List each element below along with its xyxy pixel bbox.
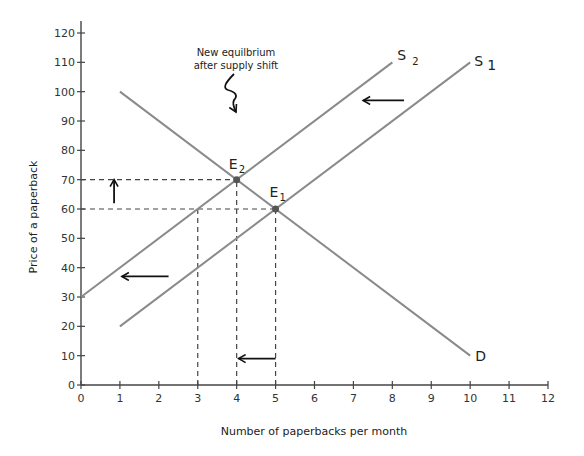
y-axis-title: Price of a paperback — [27, 160, 40, 273]
equilibrium-point-e1 — [272, 206, 279, 213]
arrows — [114, 74, 404, 359]
y-tick-label: 50 — [61, 232, 75, 245]
x-tick-label: 11 — [502, 392, 516, 405]
x-tick-label: 9 — [428, 392, 435, 405]
chart-canvas: 0123456789101112010203040506070809010011… — [0, 0, 584, 456]
annotation-line-1: New equilbrium — [197, 47, 276, 58]
y-tick-label: 90 — [61, 115, 75, 128]
annotation-squiggle-arrow-icon — [225, 74, 236, 112]
annotation-line-2: after supply shift — [194, 60, 279, 71]
curve-s1 — [120, 62, 470, 326]
label-demand: D — [475, 348, 486, 364]
x-tick-label: 5 — [272, 392, 279, 405]
x-tick-label: 12 — [541, 392, 555, 405]
label-e2: E — [229, 156, 238, 172]
label-e2-subscript: 2 — [239, 164, 245, 175]
y-tick-label: 80 — [61, 144, 75, 157]
x-tick-label: 1 — [116, 392, 123, 405]
y-tick-label: 10 — [61, 350, 75, 363]
label-e1-subscript: 1 — [280, 192, 286, 203]
y-tick-label: 60 — [61, 203, 75, 216]
labels: Number of paperbacks per month Price of … — [27, 47, 496, 438]
x-tick-label: 4 — [233, 392, 240, 405]
label-s2-subscript: 2 — [412, 56, 418, 67]
y-tick-label: 70 — [61, 174, 75, 187]
x-tick-label: 6 — [311, 392, 318, 405]
x-tick-label: 10 — [463, 392, 477, 405]
equilibrium-point-e2 — [233, 176, 240, 183]
label-e1: E — [270, 184, 279, 200]
x-tick-label: 8 — [389, 392, 396, 405]
label-s1-subscript: 1 — [487, 57, 496, 73]
x-tick-label: 7 — [350, 392, 357, 405]
y-tick-label: 40 — [61, 262, 75, 275]
label-s1: S — [474, 53, 483, 69]
y-tick-label: 0 — [68, 379, 75, 392]
y-tick-label: 100 — [54, 86, 75, 99]
x-axis-title: Number of paperbacks per month — [221, 425, 408, 438]
y-tick-label: 110 — [54, 56, 75, 69]
x-tick-label: 0 — [78, 392, 85, 405]
x-tick-label: 3 — [194, 392, 201, 405]
y-tick-label: 120 — [54, 27, 75, 40]
supply-demand-chart: 0123456789101112010203040506070809010011… — [0, 0, 584, 456]
label-s2: S — [397, 47, 406, 63]
y-tick-label: 30 — [61, 291, 75, 304]
y-tick-label: 20 — [61, 320, 75, 333]
x-tick-label: 2 — [155, 392, 162, 405]
curve-d — [120, 92, 470, 356]
